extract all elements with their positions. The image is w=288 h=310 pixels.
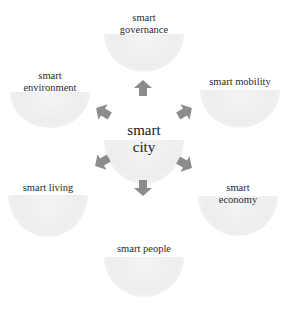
node-label-living: smart living (8, 182, 88, 194)
node-label-people: smart people (104, 243, 184, 255)
arrow-upper-right-icon (174, 100, 197, 124)
people-bowl (104, 257, 184, 297)
center-label: smart city (104, 122, 184, 156)
node-label-economy: smart economy (198, 182, 278, 206)
node-label-governance: smart governance (104, 12, 184, 36)
arrow-up-icon (134, 80, 152, 96)
node-label-environment: smart environment (10, 70, 90, 94)
governance-bowl (104, 34, 184, 72)
arrow-down-icon (134, 180, 152, 196)
environment-bowl (10, 92, 90, 128)
living-bowl (8, 195, 88, 237)
arrow-upper-left-icon (92, 100, 115, 124)
node-label-mobility: smart mobility (198, 76, 282, 88)
mobility-bowl (200, 90, 280, 128)
